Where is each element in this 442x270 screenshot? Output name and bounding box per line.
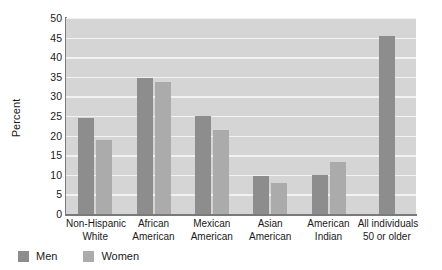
bar-group — [253, 18, 287, 214]
bar-women — [213, 130, 229, 214]
y-axis-tick-50: 50 — [36, 13, 62, 24]
gridline-35 — [66, 77, 416, 78]
x-tick-line: Non-Hispanic — [66, 218, 124, 231]
legend-item-men: Men — [18, 250, 57, 262]
gridline-30 — [66, 96, 416, 97]
y-axis-tick-0: 0 — [36, 209, 62, 220]
legend-label-men: Men — [36, 250, 57, 262]
gridline-50 — [66, 18, 416, 19]
y-axis-tick-10: 10 — [36, 169, 62, 180]
x-axis-tick-label: AfricanAmerican — [124, 218, 182, 243]
y-axis-tick-20: 20 — [36, 130, 62, 141]
x-tick-line: African — [124, 218, 182, 231]
y-axis-tick-40: 40 — [36, 52, 62, 63]
bar-men — [195, 116, 211, 214]
y-axis-tick-15: 15 — [36, 150, 62, 161]
x-axis-tick-labels: Non-HispanicWhiteAfricanAmericanMexicanA… — [66, 218, 416, 250]
x-tick-line: American — [299, 218, 357, 231]
legend-swatch-men — [18, 251, 29, 262]
x-axis-tick-label: Non-HispanicWhite — [66, 218, 124, 243]
bar-men — [78, 118, 94, 214]
x-tick-line: Asian — [241, 218, 299, 231]
chart-legend: MenWomen — [18, 250, 165, 262]
y-axis-tick-25: 25 — [36, 111, 62, 122]
gridline-25 — [66, 116, 416, 117]
gridline-20 — [66, 136, 416, 137]
gridline-10 — [66, 175, 416, 176]
bar-group — [137, 18, 171, 214]
bar-group — [195, 18, 229, 214]
y-axis-tick-5: 5 — [36, 189, 62, 200]
legend-item-women: Women — [83, 250, 139, 262]
y-axis-tick-35: 35 — [36, 71, 62, 82]
bar-group — [312, 18, 346, 214]
x-tick-line: All individuals — [358, 218, 416, 231]
bar-men — [312, 175, 328, 214]
y-axis-tick-45: 45 — [36, 32, 62, 43]
x-axis-tick-label: MexicanAmerican — [183, 218, 241, 243]
bar-women — [330, 162, 346, 214]
bar-men — [379, 36, 395, 214]
gridline-15 — [66, 155, 416, 156]
gridline-5 — [66, 194, 416, 195]
x-axis-tick-label: AmericanIndian — [299, 218, 357, 243]
bar-men — [253, 176, 269, 214]
gridline-45 — [66, 38, 416, 39]
y-axis-tick-labels: 50454035302520151050 — [36, 12, 62, 220]
bar-women — [96, 140, 112, 214]
bar-men — [137, 78, 153, 214]
x-axis-tick-label: AsianAmerican — [241, 218, 299, 243]
plot-area — [66, 18, 416, 214]
x-tick-line: American — [183, 231, 241, 244]
legend-swatch-women — [83, 251, 94, 262]
y-axis-title: Percent — [10, 78, 22, 158]
legend-label-women: Women — [101, 250, 139, 262]
x-tick-line: White — [66, 231, 124, 244]
bar-group — [379, 18, 395, 214]
x-tick-line: American — [241, 231, 299, 244]
y-axis-tick-30: 30 — [36, 91, 62, 102]
bar-women — [155, 82, 171, 214]
bar-group — [78, 18, 112, 214]
x-tick-line: American — [124, 231, 182, 244]
x-tick-line: Mexican — [183, 218, 241, 231]
x-axis-line — [65, 214, 417, 216]
x-tick-line: 50 or older — [358, 231, 416, 244]
x-axis-tick-label: All individuals50 or older — [358, 218, 416, 243]
gridline-40 — [66, 57, 416, 58]
bar-chart-figure: Percent 50454035302520151050 Non-Hispani… — [0, 0, 442, 270]
x-tick-line: Indian — [299, 231, 357, 244]
bar-women — [271, 183, 287, 214]
